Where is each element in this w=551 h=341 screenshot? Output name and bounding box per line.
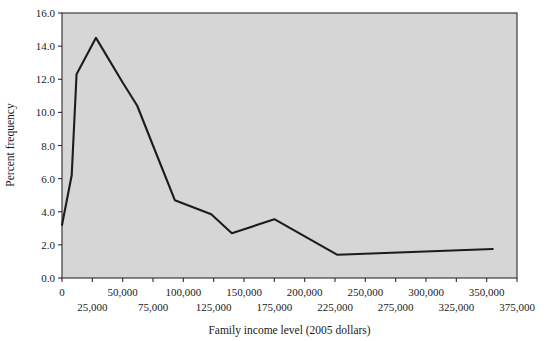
x-tick-label-lower: 325,000 <box>438 301 474 313</box>
x-tick-label-upper: 150,000 <box>226 286 262 298</box>
x-tick-label-upper: 50,000 <box>108 286 139 298</box>
x-tick-label-lower: 75,000 <box>138 301 169 313</box>
x-tick-label-upper: 300,000 <box>408 286 444 298</box>
y-tick-label: 16.0 <box>36 7 56 19</box>
x-tick-label-lower: 25,000 <box>77 301 108 313</box>
x-tick-label-lower: 125,000 <box>196 301 232 313</box>
y-tick-label: 2.0 <box>41 239 55 251</box>
plot-area-background <box>62 13 517 278</box>
y-tick-label: 6.0 <box>41 173 55 185</box>
y-tick-label: 8.0 <box>41 140 55 152</box>
x-tick-label-upper: 250,000 <box>347 286 383 298</box>
y-tick-label: 4.0 <box>41 206 55 218</box>
x-tick-label-lower: 225,000 <box>317 301 353 313</box>
y-tick-label: 10.0 <box>36 106 56 118</box>
x-tick-label-lower: 375,000 <box>499 301 535 313</box>
income-distribution-line-chart: 0.02.04.06.08.010.012.014.016.0 050,0001… <box>0 0 551 341</box>
x-tick-label-upper: 100,000 <box>165 286 201 298</box>
x-tick-label-upper: 0 <box>59 286 65 298</box>
x-tick-label-upper: 350,000 <box>469 286 505 298</box>
y-axis-title: Percent frequency <box>4 103 17 187</box>
x-tick-label-upper: 200,000 <box>287 286 323 298</box>
y-tick-label: 0.0 <box>41 272 55 284</box>
y-tick-label: 14.0 <box>36 40 56 52</box>
x-axis-title: Family income level (2005 dollars) <box>208 324 370 337</box>
y-tick-label: 12.0 <box>36 73 56 85</box>
chart-figure: 0.02.04.06.08.010.012.014.016.0 050,0001… <box>0 0 551 341</box>
x-tick-label-lower: 275,000 <box>378 301 414 313</box>
x-tick-label-lower: 175,000 <box>256 301 292 313</box>
